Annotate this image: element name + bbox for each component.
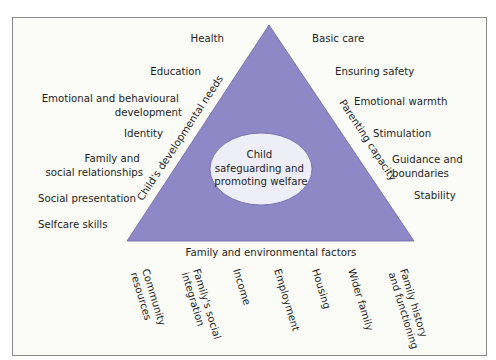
item-basic-care: Basic care: [312, 33, 364, 44]
item-emotional-warmth: Emotional warmth: [354, 96, 447, 107]
item-social-presentation: Social presentation: [38, 193, 136, 204]
side-label-family-environmental-factors: Family and environmental factors: [186, 247, 357, 258]
item-ensuring-safety: Ensuring safety: [335, 66, 414, 77]
item-health: Health: [191, 33, 224, 44]
assessment-framework-diagram: Child safeguarding and promoting welfare…: [0, 0, 496, 360]
item-identity: Identity: [124, 128, 163, 139]
item-selfcare-skills: Selfcare skills: [38, 219, 107, 230]
item-stability: Stability: [414, 190, 456, 201]
item-education: Education: [150, 66, 201, 77]
item-stimulation: Stimulation: [373, 128, 431, 139]
